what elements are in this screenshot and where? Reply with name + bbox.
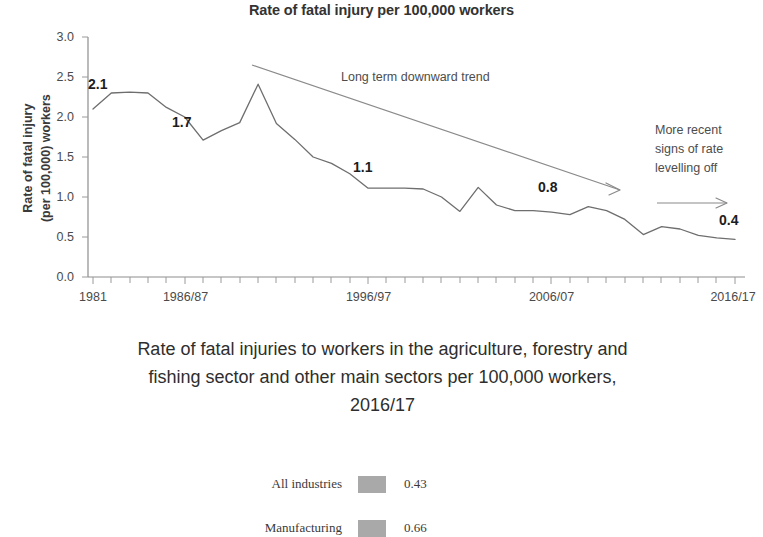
legend: All industries 0.43 Manufacturing 0.66 xyxy=(212,462,542,537)
figure-root: Rate of fatal injury per 100,000 workers xyxy=(0,0,763,537)
legend-row: Manufacturing 0.66 xyxy=(212,506,542,537)
legend-swatch xyxy=(358,476,386,493)
y-axis-title-line2: (per 100,000) workers xyxy=(39,94,53,222)
y-axis-title-line1: Rate of fatal injury xyxy=(21,104,35,213)
legend-value: 0.66 xyxy=(386,520,427,536)
data-series-line xyxy=(93,84,735,239)
legend-row: All industries 0.43 xyxy=(212,462,542,506)
annotation-long-term-trend: Long term downward trend xyxy=(341,68,490,87)
legend-label: Manufacturing xyxy=(212,520,358,536)
data-label-2-1: 2.1 xyxy=(88,76,107,92)
caption-line3: 2016/17 xyxy=(350,395,415,415)
levelling-off-arrow xyxy=(657,198,727,208)
legend-value: 0.43 xyxy=(386,476,427,492)
y-tick-label-0: 0.0 xyxy=(40,270,74,284)
data-label-0-8: 0.8 xyxy=(538,179,557,195)
x-axis-ticks xyxy=(93,277,735,284)
figure-caption: Rate of fatal injuries to workers in the… xyxy=(60,336,705,420)
annotation-recent-line1: More recent xyxy=(655,121,722,140)
data-label-1-7: 1.7 xyxy=(172,114,191,130)
x-tick-label-1986-87: 1986/87 xyxy=(148,290,223,304)
data-label-0-4: 0.4 xyxy=(719,212,738,228)
caption-line1: Rate of fatal injuries to workers in the… xyxy=(137,339,627,359)
data-label-1-1: 1.1 xyxy=(353,159,372,175)
legend-label: All industries xyxy=(212,476,358,492)
chart-plot-area xyxy=(0,0,763,330)
y-axis-title: Rate of fatal injury (per 100,000) worke… xyxy=(19,58,55,258)
y-tick-label-6: 3.0 xyxy=(40,30,74,44)
caption-line2: fishing sector and other main sectors pe… xyxy=(148,367,616,387)
x-tick-label-1996-97: 1996/97 xyxy=(331,290,406,304)
annotation-recent-line3: levelling off xyxy=(655,159,717,178)
y-axis-ticks xyxy=(82,37,88,277)
x-tick-label-2016-17: 2016/17 xyxy=(698,290,763,304)
x-tick-label-2006-07: 2006/07 xyxy=(514,290,589,304)
annotation-recent-line2: signs of rate xyxy=(655,140,723,159)
legend-swatch xyxy=(358,520,386,537)
x-tick-label-1981: 1981 xyxy=(68,290,118,304)
